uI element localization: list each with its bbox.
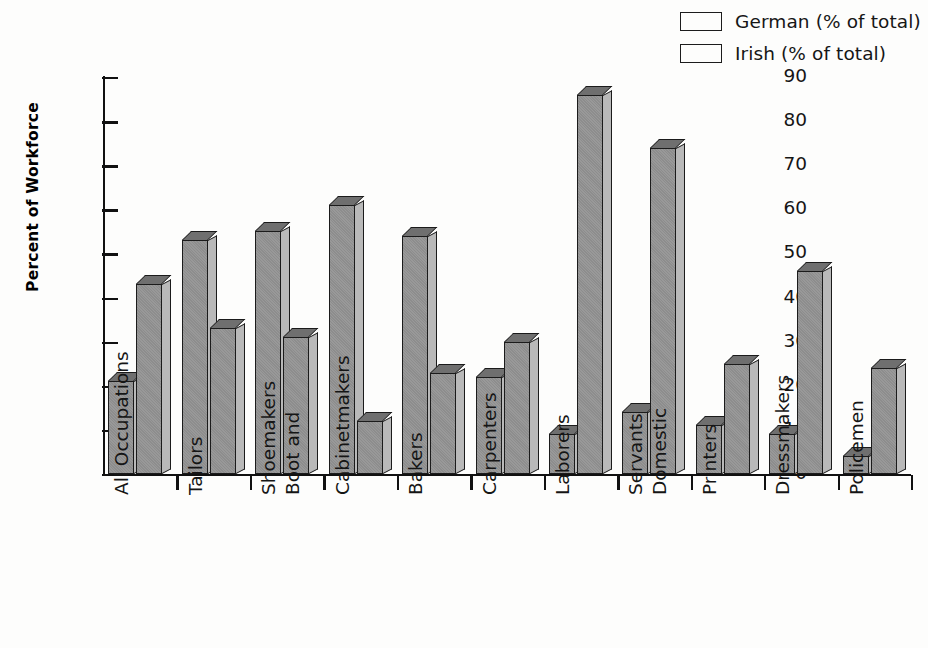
y-axis-tick-label: 90 xyxy=(761,65,807,86)
bar-side-face xyxy=(383,416,392,474)
bar-front-face xyxy=(577,95,603,474)
y-axis-tick-label: 80 xyxy=(761,109,807,130)
plot-area: 0102030405060708090All OccupationsTailor… xyxy=(103,77,911,474)
chart-legend: German (% of total) Irish (% of total) xyxy=(680,8,921,72)
y-axis-tick-label: 50 xyxy=(761,241,807,262)
legend-swatch-german xyxy=(680,12,722,31)
x-axis-tick xyxy=(764,475,766,490)
y-axis-tick xyxy=(102,165,118,167)
bar-chart: German (% of total) Irish (% of total) P… xyxy=(0,0,928,648)
y-axis-tick xyxy=(102,77,118,79)
x-axis-label-line: Boot and xyxy=(281,381,305,495)
x-axis-label-line: Dressmakers xyxy=(771,375,795,495)
bar-irish xyxy=(871,368,897,474)
bar-front-face xyxy=(210,328,236,474)
bar-front-face xyxy=(357,421,383,474)
legend-item-german: German (% of total) xyxy=(680,8,921,34)
bar-irish xyxy=(430,373,456,474)
y-axis-tick-label: 60 xyxy=(761,197,807,218)
bar-front-face xyxy=(797,271,823,474)
y-axis-tick-label: 70 xyxy=(761,153,807,174)
bar-irish xyxy=(357,421,383,474)
y-axis-tick xyxy=(102,253,118,255)
x-axis-label-line: Laborers xyxy=(551,414,575,495)
x-axis-label-line: All Occupations xyxy=(110,351,134,495)
bar-side-face xyxy=(162,280,171,474)
x-axis-tick xyxy=(250,475,252,490)
bar-front-face xyxy=(724,364,750,474)
bar-side-face xyxy=(456,368,465,474)
x-axis-label-line: Shoemakers xyxy=(257,381,281,495)
bar-side-face xyxy=(236,324,245,474)
x-axis-tick xyxy=(838,475,840,490)
y-axis-title: Percent of Workforce xyxy=(24,102,42,292)
x-axis-label-line: Servants xyxy=(624,408,648,495)
y-axis-tick xyxy=(102,298,118,300)
x-axis-tick xyxy=(176,475,178,490)
bar-irish xyxy=(210,328,236,474)
x-axis-tick xyxy=(470,475,472,490)
bar-irish xyxy=(504,342,530,474)
x-axis-label-line: Bakers xyxy=(404,432,428,495)
legend-item-irish: Irish (% of total) xyxy=(680,40,921,66)
bar-side-face xyxy=(603,90,612,474)
bar-irish xyxy=(797,271,823,474)
x-axis-label-line: Tailors xyxy=(184,437,208,495)
x-axis-tick xyxy=(617,475,619,490)
bar-irish xyxy=(136,284,162,474)
x-axis-tick xyxy=(397,475,399,490)
y-axis-line xyxy=(103,76,105,475)
legend-label-irish: Irish (% of total) xyxy=(735,43,886,64)
bar-side-face xyxy=(530,337,539,474)
x-axis-label-line: Printers xyxy=(698,424,722,495)
x-axis-tick xyxy=(323,475,325,490)
bar-front-face xyxy=(504,342,530,474)
legend-swatch-irish xyxy=(680,44,722,63)
bar-front-face xyxy=(430,373,456,474)
y-axis-tick xyxy=(102,209,118,211)
x-axis-label-line: Policemen xyxy=(845,400,869,495)
bar-side-face xyxy=(823,266,832,474)
x-axis-tick xyxy=(544,475,546,490)
y-axis-tick xyxy=(102,121,118,123)
x-axis-label-line: Cabinetmakers xyxy=(331,355,355,495)
bar-side-face xyxy=(750,359,759,474)
x-axis-label-line: Carpenters xyxy=(478,392,502,495)
y-axis-tick xyxy=(102,342,118,344)
bar-front-face xyxy=(136,284,162,474)
x-axis-label-line: Domestic xyxy=(648,408,672,495)
x-axis-tick xyxy=(911,475,913,490)
bar-side-face xyxy=(676,143,685,474)
x-axis-tick xyxy=(691,475,693,490)
bar-irish xyxy=(577,95,603,474)
bar-side-face xyxy=(897,363,906,474)
bar-front-face xyxy=(871,368,897,474)
bar-side-face xyxy=(309,332,318,474)
bar-irish xyxy=(724,364,750,474)
legend-label-german: German (% of total) xyxy=(735,11,921,32)
